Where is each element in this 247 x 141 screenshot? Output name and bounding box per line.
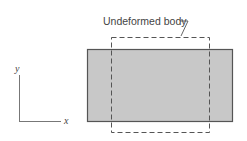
- y-axis-label: y: [14, 63, 20, 74]
- deformation-diagram: Undeformed body y x: [0, 0, 247, 141]
- deformed-body: [88, 50, 233, 122]
- undeformed-body-label: Undeformed body: [103, 15, 187, 27]
- x-axis-label: x: [63, 115, 69, 126]
